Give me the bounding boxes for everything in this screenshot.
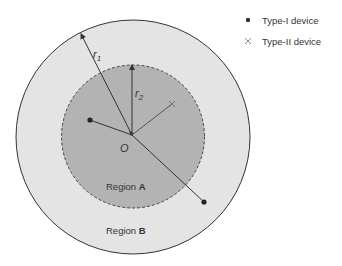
type-i-device-dot-icon: [201, 199, 206, 204]
region-a-label: Region A: [106, 181, 146, 192]
center-label: O: [120, 142, 129, 154]
region-b-label: Region B: [106, 225, 146, 236]
diagram-canvas: r1 r2 O Region A Region B Type-I device …: [0, 0, 342, 266]
legend-cross-icon: [245, 38, 251, 44]
type-i-device-dot-icon: [87, 117, 92, 122]
legend-dot-icon: [246, 18, 250, 22]
legend-type-ii-label: Type-II device: [262, 36, 321, 47]
legend: Type-I device Type-II device: [245, 15, 321, 47]
legend-type-i-label: Type-I device: [262, 15, 319, 26]
